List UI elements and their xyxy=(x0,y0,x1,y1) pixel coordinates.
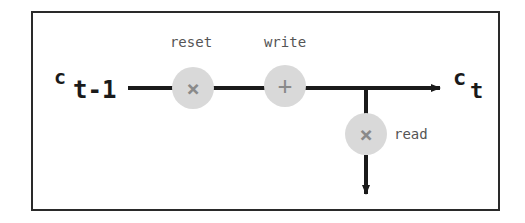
svg-text:c: c xyxy=(453,65,466,90)
gate-label-write: write xyxy=(264,34,306,50)
svg-text:c: c xyxy=(54,65,66,89)
gate-label-reset: reset xyxy=(170,34,212,50)
gate-reset: × xyxy=(172,67,214,109)
multiply-icon: × xyxy=(359,122,372,147)
output-state-label: c t xyxy=(453,65,483,103)
plus-icon: + xyxy=(278,72,292,100)
gate-read: × xyxy=(345,113,387,155)
multiply-icon: × xyxy=(186,76,199,101)
svg-text:t: t xyxy=(470,78,483,103)
gate-write: + xyxy=(264,65,306,107)
input-state-label: c t-1 xyxy=(54,65,116,104)
cell-state-diagram: × + × reset write read c t-1 c t xyxy=(0,0,525,223)
gate-label-read: read xyxy=(394,126,428,142)
svg-text:t-1: t-1 xyxy=(73,76,116,104)
